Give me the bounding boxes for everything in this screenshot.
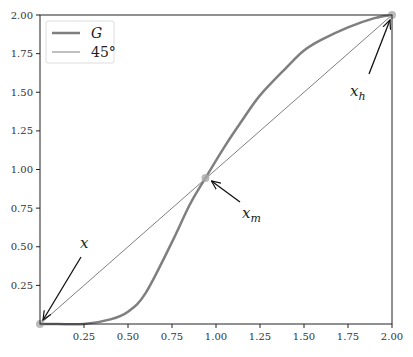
- x-tick-label: 0.25: [73, 331, 95, 342]
- y-tick-label: 0.50: [11, 241, 33, 252]
- y-tick-label: 1.00: [11, 164, 33, 175]
- annotation-xh-label: xh: [350, 82, 366, 103]
- fixed-point-marker: [201, 174, 209, 182]
- annotation-xm-arrow: [211, 181, 240, 202]
- x-tick-label: 2.00: [381, 331, 403, 342]
- x-tick-label: 1.75: [337, 331, 359, 342]
- chart: 0.250.500.751.001.251.501.752.00 0.250.5…: [0, 0, 413, 357]
- y-tick-label: 1.25: [11, 125, 33, 136]
- legend: G 45°: [46, 21, 116, 63]
- y-tick-label: 2.00: [11, 10, 33, 21]
- y-tick-label: 0.75: [11, 203, 33, 214]
- annotation-xm-label: xm: [242, 204, 261, 225]
- y-axis: 0.250.500.751.001.251.501.752.00: [11, 10, 40, 291]
- y-tick-label: 1.50: [11, 87, 33, 98]
- y-tick-label: 1.75: [11, 48, 33, 59]
- legend-45-label: 45°: [91, 44, 116, 60]
- x-tick-label: 1.50: [293, 331, 315, 342]
- legend-g-label: G: [91, 25, 102, 41]
- x-tick-label: 1.00: [205, 331, 227, 342]
- annotation-xh-arrow: [369, 20, 390, 74]
- y-tick-label: 0.25: [11, 280, 33, 291]
- x-tick-label: 1.25: [249, 331, 271, 342]
- x-axis: 0.250.500.751.001.251.501.752.00: [73, 324, 403, 342]
- x-tick-label: 0.75: [161, 331, 183, 342]
- annotation-x-arrow: [43, 257, 81, 320]
- x-tick-label: 0.50: [117, 331, 139, 342]
- annotation-x-label: x: [80, 234, 89, 252]
